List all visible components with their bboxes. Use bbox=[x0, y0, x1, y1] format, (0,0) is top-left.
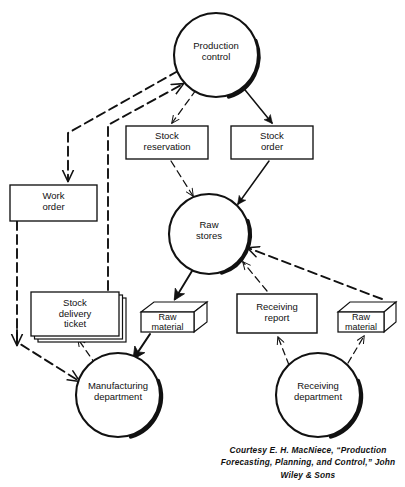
flowchart-canvas bbox=[0, 0, 405, 487]
node-receiving-report[interactable] bbox=[237, 294, 317, 333]
edge-sr-to-raw-stores bbox=[171, 161, 193, 196]
edge-so-to-raw-stores bbox=[238, 161, 269, 204]
node-stock-delivery-ticket[interactable] bbox=[31, 292, 126, 342]
edge-rawmaterial-to-raw-stores bbox=[248, 248, 382, 299]
edge-pc-to-stock-order bbox=[241, 85, 272, 123]
edge-report-to-raw-stores bbox=[243, 262, 267, 291]
edge-receiving-to-material bbox=[348, 336, 364, 363]
edge-raw-stores-to-material bbox=[175, 271, 192, 299]
node-receiving-department[interactable] bbox=[276, 353, 360, 437]
node-work-order[interactable] bbox=[10, 185, 97, 221]
node-raw-material-right[interactable] bbox=[338, 302, 396, 332]
node-production-control[interactable] bbox=[174, 13, 258, 97]
node-raw-stores[interactable] bbox=[169, 194, 249, 274]
node-manufacturing-department[interactable] bbox=[76, 353, 160, 437]
edge-sdt-to-pc bbox=[108, 84, 183, 290]
flowchart-figure: Production control Stock reservation Sto… bbox=[0, 0, 405, 487]
node-raw-material-left[interactable] bbox=[141, 302, 207, 332]
edge-pc-to-stock-reservation bbox=[172, 90, 196, 123]
node-stock-reservation[interactable] bbox=[126, 126, 208, 159]
node-stock-order[interactable] bbox=[231, 126, 313, 159]
edge-receiving-to-report bbox=[278, 337, 289, 365]
figure-caption: Courtesy E. H. MacNiece, “Production For… bbox=[214, 444, 402, 481]
edge-material-to-manufacturing bbox=[134, 334, 150, 358]
